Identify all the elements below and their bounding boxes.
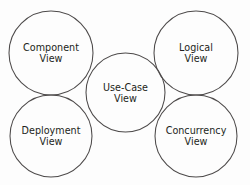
circle-logical-view[interactable] — [154, 11, 238, 95]
circle-use-case-view[interactable] — [86, 53, 165, 132]
circle-concurrency-view[interactable] — [155, 95, 237, 177]
view-model-circles — [0, 0, 250, 185]
circle-deployment-view[interactable] — [10, 95, 92, 177]
diagram-canvas: Component View Logical View Use-Case Vie… — [0, 0, 250, 185]
circle-component-view[interactable] — [9, 11, 93, 95]
